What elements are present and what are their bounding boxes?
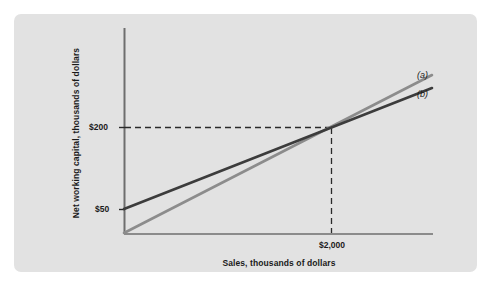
series-label-b: (b) [417,89,428,99]
y-tick-label-200: $200 [89,122,108,132]
y-tick-label-50: $50 [95,204,109,214]
y-axis-title: Net working capital, thousands of dollar… [71,33,81,233]
x-tick-label-2000: $2,000 [311,240,353,250]
series-line-a [124,75,432,233]
series-label-a: (a) [417,70,428,80]
chart-screenshot: Net working capital, thousands of dollar… [0,0,495,289]
x-axis-title: Sales, thousands of dollars [189,258,369,268]
series-line-b [124,88,432,209]
